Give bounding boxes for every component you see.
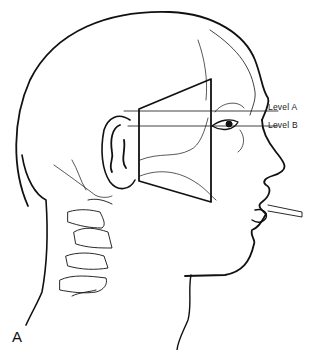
inner-skull-line [210,30,255,115]
eye-socket [215,103,244,152]
head-profile-drawing [0,0,311,350]
eye [212,120,238,130]
back-neck [22,155,47,325]
cervical-spine [60,199,112,296]
pupil [226,121,232,127]
field-trapezoid [139,79,211,202]
level-b-label: Level B [268,120,298,130]
ear-inner [111,125,126,172]
ear-outer [102,116,135,188]
front-neck [177,275,191,350]
panel-label: A [12,328,22,345]
cigarette [268,205,302,217]
skull-outline [16,12,268,206]
level-a-label: Level A [268,102,297,112]
facial-nerves [140,40,216,200]
